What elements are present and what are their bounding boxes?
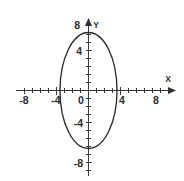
x-axis-label: X [165,74,171,84]
x-axis-arrow-icon [168,87,176,94]
x-tick-label-pos4: 4 [119,94,125,106]
y-axis-arrow-icon [85,18,92,26]
x-tick-label-pos8: 8 [153,94,159,106]
coordinate-plot: X Y -8 -4 0 4 8 8 4 -4 -8 [0,0,184,181]
x-tick-label-zero: 0 [78,94,84,106]
x-tick-label-neg4: -4 [51,94,60,106]
y-tick-label-pos4: 4 [76,45,82,57]
y-axis-label: Y [93,20,99,30]
y-tick-label-pos8: 8 [74,19,80,31]
y-tick-label-neg4: -4 [74,117,83,129]
graph-figure: X Y -8 -4 0 4 8 8 4 -4 -8 [0,0,184,181]
y-tick-label-neg8: -8 [74,157,83,169]
x-tick-label-neg8: -8 [19,94,28,106]
